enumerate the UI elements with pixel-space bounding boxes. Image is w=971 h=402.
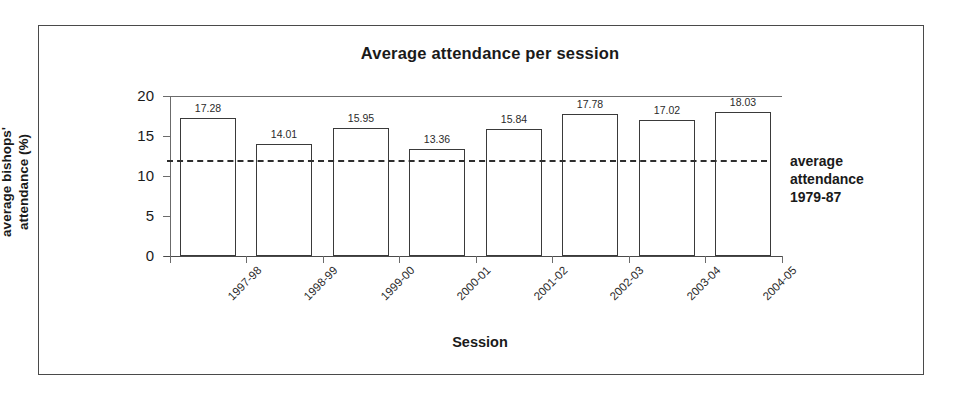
x-tick-mark-0 [170, 256, 171, 263]
bar-value-label-1997-98: 17.28 [180, 103, 236, 114]
y-axis-title: average bishops' attendance (%) [0, 92, 35, 272]
bar-value-label-2002-03: 17.78 [562, 99, 618, 110]
bar-1999-00[interactable] [333, 128, 389, 256]
reference-line-annotation: average attendance 1979-87 [790, 152, 920, 206]
x-tick-mark-8 [782, 256, 783, 263]
bar-value-label-2003-04: 17.02 [639, 105, 695, 116]
x-tick-mark-1 [246, 256, 247, 263]
bar-2004-05[interactable] [715, 112, 771, 256]
bar-value-label-2001-02: 15.84 [486, 114, 542, 125]
y-tick-label-20: 20 [114, 88, 154, 103]
bar-value-label-2004-05: 18.03 [715, 97, 771, 108]
bar-value-label-2000-01: 13.36 [409, 134, 465, 145]
y-tick-label-0: 0 [114, 248, 154, 263]
chart-figure: Average attendance per session average b… [0, 0, 971, 402]
x-tick-mark-4 [476, 256, 477, 263]
y-tick-label-10: 10 [114, 168, 154, 183]
x-tick-mark-7 [705, 256, 706, 263]
bar-2000-01[interactable] [409, 149, 465, 256]
bar-value-label-1998-99: 14.01 [256, 129, 312, 140]
y-axis-title-line-2: attendance (%) [15, 134, 32, 230]
plot-top-border [170, 96, 782, 97]
x-axis-title: Session [300, 334, 660, 350]
x-axis-line [164, 256, 782, 257]
y-axis-title-line-1: average bishops' [0, 127, 15, 237]
bar-value-label-1999-00: 15.95 [333, 113, 389, 124]
y-tick-label-15: 15 [114, 128, 154, 143]
chart-title: Average attendance per session [180, 44, 800, 63]
reference-annotation-line-3: 1979-87 [790, 188, 920, 206]
bar-2003-04[interactable] [639, 120, 695, 256]
bar-2001-02[interactable] [486, 129, 542, 256]
y-tick-label-5: 5 [114, 208, 154, 223]
reference-annotation-line-2: attendance [790, 170, 920, 188]
x-tick-mark-5 [552, 256, 553, 263]
x-tick-mark-2 [323, 256, 324, 263]
reference-annotation-line-1: average [790, 152, 920, 170]
x-tick-mark-6 [629, 256, 630, 263]
bar-2002-03[interactable] [562, 114, 618, 256]
average-attendance-reference-line [167, 160, 767, 162]
bar-1997-98[interactable] [180, 118, 236, 256]
x-tick-mark-3 [399, 256, 400, 263]
